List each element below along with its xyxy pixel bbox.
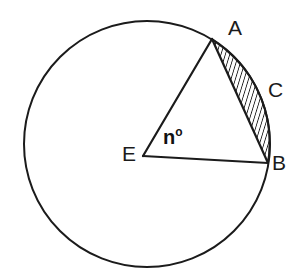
central-angle-label: no [163,126,183,147]
point-label-c: C [268,79,283,100]
point-label-a: A [228,17,242,38]
point-label-b: B [272,152,286,173]
degree-symbol: o [175,125,182,139]
radius-eb [143,156,268,163]
point-label-e: E [122,143,136,164]
angle-value: n [163,126,175,148]
geometry-figure: A C B E no [0,0,300,277]
geometry-drawing-canvas [0,0,300,277]
